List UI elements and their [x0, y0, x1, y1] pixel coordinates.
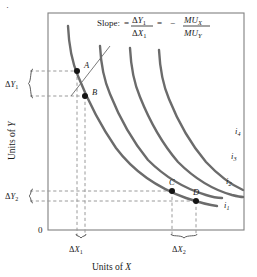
brace-delta-y1 [29, 69, 34, 98]
slope-formula-equals-2: = [157, 18, 162, 28]
curve-label-i2: i2 [226, 176, 231, 187]
indifference-curve-i1 [68, 26, 217, 206]
slope-formula-minus: − [170, 18, 175, 28]
corner-mark: · [6, 2, 9, 12]
point-label-b: B [92, 87, 97, 97]
x-axis-title: Units of X [92, 262, 132, 272]
slope-formula: Slope: = ΔY1 ΔX1 = − MUX MUY [97, 15, 210, 39]
slope-formula-denominator-2: MUY [183, 28, 203, 39]
indifference-curve-i3 [130, 48, 243, 197]
data-point-c [169, 188, 175, 194]
label-delta-y1: ΔY1 [5, 79, 18, 90]
label-delta-x1: ΔX1 [69, 244, 83, 255]
curve-label-i3: i3 [231, 151, 236, 162]
point-label-a: A [83, 60, 90, 70]
point-label-d: D [192, 187, 200, 197]
point-label-c: C [169, 177, 175, 187]
figure-container: · [0, 0, 257, 277]
curve-label-i4: i4 [235, 126, 240, 137]
slope-formula-equals-1: = [124, 18, 129, 28]
y-axis-title: Units of Y [7, 120, 17, 160]
data-point-b [82, 93, 88, 99]
slope-formula-denominator-1: ΔX1 [132, 28, 147, 39]
label-delta-x2: ΔX2 [172, 244, 186, 255]
slope-formula-numerator-1: ΔY1 [132, 15, 146, 26]
origin-label: 0 [38, 225, 43, 235]
data-point-a [74, 68, 80, 74]
slope-formula-numerator-2: MUX [183, 15, 203, 26]
brace-delta-x2 [171, 234, 197, 238]
slope-formula-label: Slope: [97, 18, 120, 28]
indifference-curve-diagram: · [0, 0, 257, 277]
indifference-curve-i4 [159, 50, 243, 190]
data-point-d [193, 198, 199, 204]
label-delta-y2: ΔY2 [5, 191, 18, 202]
curve-label-i1: i1 [224, 200, 229, 211]
